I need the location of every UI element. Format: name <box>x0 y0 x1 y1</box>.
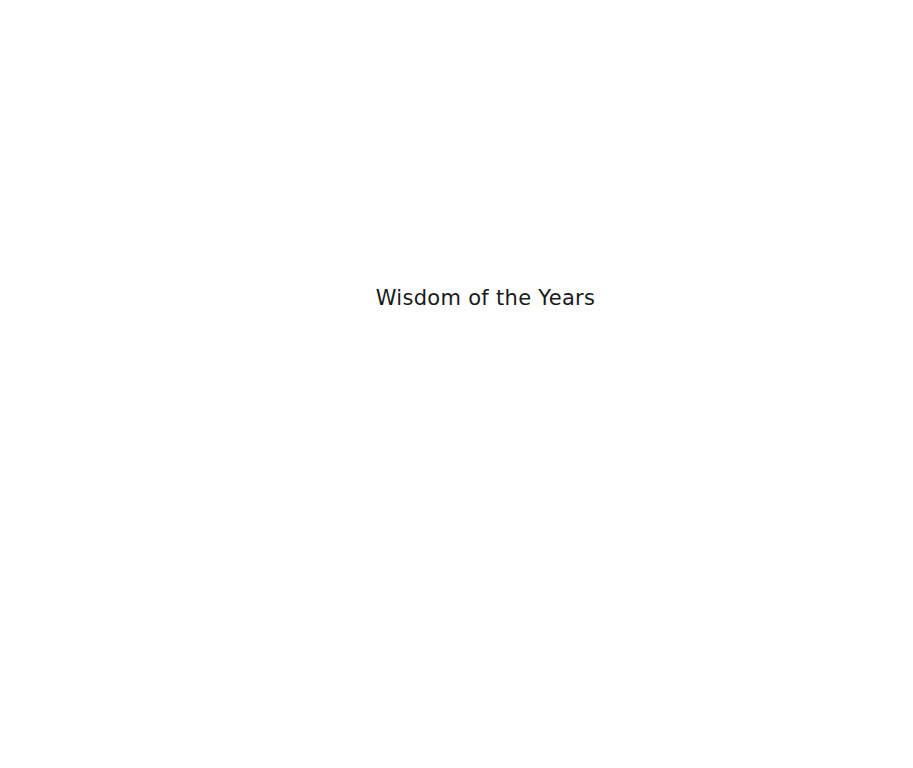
document-page: Wisdom of the Years <box>0 0 913 768</box>
page-title: Wisdom of the Years <box>0 283 913 313</box>
